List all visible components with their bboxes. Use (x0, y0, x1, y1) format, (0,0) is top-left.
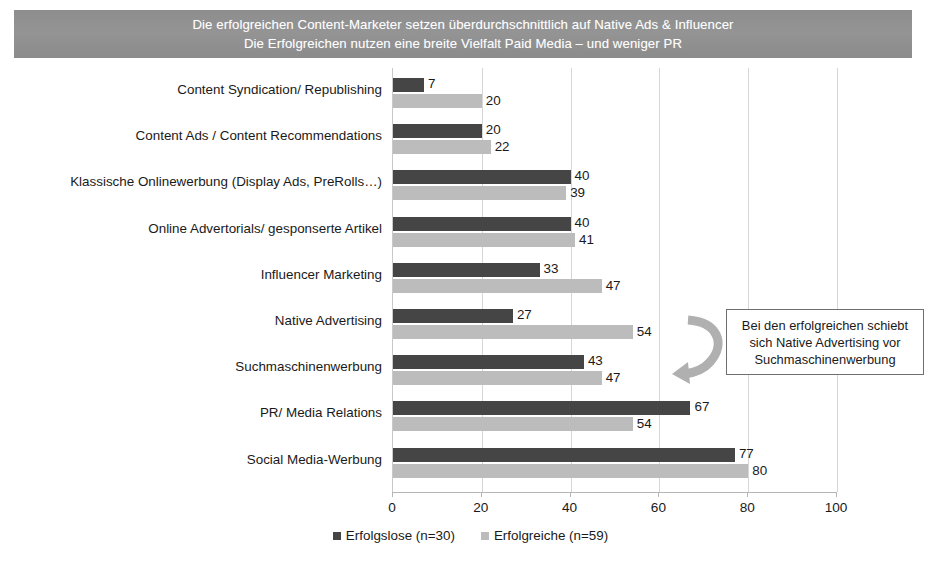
bar-value-label: 33 (544, 262, 559, 276)
bar-value-label: 43 (588, 354, 603, 368)
bar-row: Influencer Marketing3347 (0, 261, 941, 308)
category-label: Online Advertorials/ gesponserte Artikel (148, 221, 382, 237)
callout-line-2: sich Native Advertising vor (749, 334, 900, 351)
x-axis-tick-label: 0 (388, 500, 396, 516)
x-axis-tick (747, 492, 748, 497)
chart-legend: Erfolgslose (n=30)Erfolgreiche (n=59) (0, 528, 941, 544)
bar-row: Content Ads / Content Recommendations202… (0, 122, 941, 169)
legend-item[interactable]: Erfolgreiche (n=59) (481, 528, 608, 544)
bar-value-label: 67 (694, 400, 709, 414)
chart-title-line-1: Die erfolgreichen Content-Marketer setze… (192, 15, 733, 34)
bar-value-label: 40 (575, 169, 590, 183)
x-axis-tick-label: 40 (562, 500, 577, 516)
bar-row: PR/ Media Relations6754 (0, 399, 941, 446)
bar-segment (393, 170, 571, 184)
bar-value-label: 47 (606, 279, 621, 293)
bar-segment (393, 217, 571, 231)
legend-item[interactable]: Erfolgslose (n=30) (333, 528, 455, 544)
x-axis-tick-label: 100 (825, 500, 848, 516)
bar-row: Social Media-Werbung7780 (0, 446, 941, 493)
callout-line-1: Bei den erfolgreichen schiebt (742, 317, 908, 334)
x-axis-tick (481, 492, 482, 497)
x-axis-tick-label: 60 (651, 500, 666, 516)
chart-title-banner: Die erfolgreichen Content-Marketer setze… (14, 10, 912, 58)
callout-annotation-box: Bei den erfolgreichen schiebt sich Nativ… (726, 309, 924, 375)
x-axis-tick (570, 492, 571, 497)
bar-value-label: 22 (495, 140, 510, 154)
bar-segment (393, 355, 584, 369)
bar-value-label: 27 (517, 308, 532, 322)
bar-value-label: 39 (570, 186, 585, 200)
bar-value-label: 20 (486, 123, 501, 137)
bar-segment (393, 401, 690, 415)
bar-value-label: 41 (579, 233, 594, 247)
x-axis-tick (836, 492, 837, 497)
bar-value-label: 20 (486, 94, 501, 108)
bar-segment (393, 417, 633, 431)
bar-segment (393, 186, 566, 200)
bar-segment (393, 233, 575, 247)
legend-swatch-icon (481, 532, 489, 540)
curved-arrow-icon (662, 312, 734, 384)
bar-segment (393, 325, 633, 339)
bar-segment (393, 140, 491, 154)
bar-row: Online Advertorials/ gesponserte Artikel… (0, 215, 941, 262)
bar-row: Klassische Onlinewerbung (Display Ads, P… (0, 168, 941, 215)
category-label: Content Syndication/ Republishing (177, 82, 382, 98)
x-axis-tick (392, 492, 393, 497)
x-axis-tick-label: 80 (740, 500, 755, 516)
category-label: Content Ads / Content Recommendations (136, 128, 382, 144)
bar-segment (393, 263, 540, 277)
bar-segment (393, 124, 482, 138)
legend-label: Erfolgreiche (n=59) (494, 528, 608, 544)
callout-line-3: Suchmaschinenwerbung (754, 351, 895, 368)
bar-row: Content Syndication/ Republishing720 (0, 76, 941, 123)
bar-value-label: 54 (637, 417, 652, 431)
category-label: Influencer Marketing (261, 267, 382, 283)
bar-segment (393, 464, 748, 478)
bar-segment (393, 279, 602, 293)
category-label: Suchmaschinenwerbung (235, 359, 382, 375)
x-axis-tick (658, 492, 659, 497)
bar-value-label: 80 (752, 464, 767, 478)
chart-subtitle-line-2: Die Erfolgreichen nutzen eine breite Vie… (244, 34, 682, 53)
bar-segment (393, 309, 513, 323)
bar-segment (393, 371, 602, 385)
bar-segment (393, 94, 482, 108)
category-label: Klassische Onlinewerbung (Display Ads, P… (70, 174, 382, 190)
legend-label: Erfolgslose (n=30) (346, 528, 455, 544)
bar-segment (393, 448, 735, 462)
bar-segment (393, 78, 424, 92)
legend-swatch-icon (333, 532, 341, 540)
bar-value-label: 40 (575, 216, 590, 230)
x-axis-tick-label: 20 (473, 500, 488, 516)
category-label: PR/ Media Relations (260, 405, 382, 421)
bar-value-label: 77 (739, 447, 754, 461)
category-label: Native Advertising (275, 313, 382, 329)
category-label: Social Media-Werbung (247, 452, 382, 468)
bar-value-label: 54 (637, 325, 652, 339)
bar-value-label: 47 (606, 371, 621, 385)
bar-value-label: 7 (428, 77, 435, 91)
